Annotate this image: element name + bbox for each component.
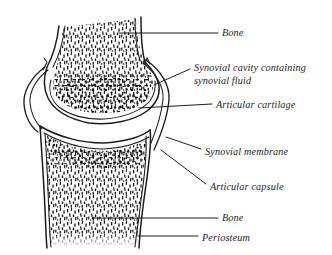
leader-synovial-membrane [166, 137, 201, 149]
label-bone-top: Bone [222, 27, 244, 38]
label-articular-cartilage: Articular cartilage [215, 99, 296, 110]
lower-bone-spongy-texture [44, 130, 156, 248]
label-synovial-membrane: Synovial membrane [205, 146, 289, 157]
lower-bone [40, 126, 156, 248]
leader-articular-cartilage [139, 104, 212, 108]
figure-canvas: Bone Synovial cavity containing synovial… [0, 0, 332, 255]
label-bone-bottom: Bone [222, 212, 244, 223]
label-synovial-cavity-line1: Synovial cavity containing [194, 62, 306, 73]
label-articular-capsule: Articular capsule [209, 181, 284, 192]
labels: Bone Synovial cavity containing synovial… [194, 27, 306, 243]
capsule-left-outer-line [24, 67, 45, 132]
synovial-joint-diagram: Bone Synovial cavity containing synovial… [0, 0, 332, 255]
leader-articular-capsule [161, 150, 206, 184]
leader-bone-bottom-endpoint [92, 217, 94, 219]
label-synovial-cavity-line2: synovial fluid [194, 75, 252, 86]
label-periosteum: Periosteum [201, 232, 250, 243]
